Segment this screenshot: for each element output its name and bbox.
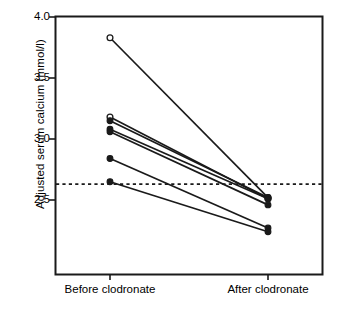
- calcium-before-after-figure: Adjusted serum calcium (mmol/l) 4.0 3.5 …: [0, 0, 338, 314]
- filled-circle-marker: [107, 179, 113, 185]
- series-patient-6: [107, 156, 271, 231]
- plot-area: [0, 0, 338, 314]
- filled-circle-marker: [107, 156, 113, 162]
- plot-frame: [56, 17, 323, 275]
- series-layer: [107, 35, 271, 235]
- open-circle-marker: [107, 35, 113, 41]
- filled-circle-marker: [107, 118, 113, 124]
- slope-line: [110, 38, 268, 198]
- filled-circle-marker: [265, 202, 271, 208]
- slope-line: [110, 121, 268, 198]
- series-patient-1: [107, 35, 271, 201]
- filled-circle-marker: [265, 196, 271, 202]
- filled-circle-marker: [265, 229, 271, 235]
- series-patient-4: [107, 126, 271, 201]
- y-axis-ticks: [49, 17, 55, 200]
- filled-circle-marker: [107, 129, 113, 135]
